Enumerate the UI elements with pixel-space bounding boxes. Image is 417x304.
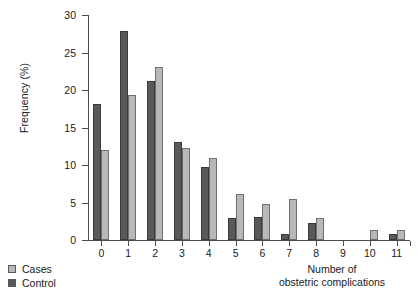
bar-cases-11 xyxy=(397,230,405,240)
x-tick-mark-end xyxy=(410,241,411,246)
y-tick-mark xyxy=(82,53,88,54)
x-tick-label: 10 xyxy=(364,247,376,259)
y-tick-label: 20 xyxy=(64,84,76,96)
y-tick-mark xyxy=(82,128,88,129)
x-tick-mark xyxy=(343,241,344,246)
y-tick-label: 5 xyxy=(70,197,76,209)
x-tick-mark xyxy=(128,241,129,246)
bar-chart-figure: Frequency (%) 051015202530 0123456789101… xyxy=(0,0,417,304)
y-tick-label: 15 xyxy=(64,122,76,134)
bar-control-0 xyxy=(93,104,101,240)
legend-swatch-cases-icon xyxy=(8,265,16,273)
y-tick-mark xyxy=(82,15,88,16)
y-tick-mark xyxy=(82,90,88,91)
x-tick-mark xyxy=(289,241,290,246)
x-axis-title: Number of obstetric complications xyxy=(252,263,412,289)
bar-control-6 xyxy=(254,217,262,240)
legend-item-control: Control xyxy=(8,276,56,290)
chart-legend: Cases Control xyxy=(8,262,56,290)
y-tick-label: 25 xyxy=(64,47,76,59)
x-tick-label: 9 xyxy=(340,247,346,259)
x-axis-line xyxy=(88,240,410,241)
x-tick-mark xyxy=(397,241,398,246)
x-tick-label: 1 xyxy=(125,247,131,259)
y-tick-mark xyxy=(82,240,88,241)
bar-cases-0 xyxy=(101,150,109,240)
y-tick-label: 30 xyxy=(64,9,76,21)
y-tick-label: 0 xyxy=(70,234,76,246)
x-tick-mark xyxy=(316,241,317,246)
legend-item-cases: Cases xyxy=(8,262,56,276)
bar-cases-3 xyxy=(182,148,190,240)
bar-control-11 xyxy=(389,234,397,240)
bar-control-5 xyxy=(228,218,236,241)
x-tick-label: 2 xyxy=(152,247,158,259)
y-tick-mark xyxy=(82,165,88,166)
x-tick-label: 5 xyxy=(233,247,239,259)
x-tick-label: 4 xyxy=(206,247,212,259)
x-axis-title-line-2: obstetric complications xyxy=(252,276,412,289)
bar-cases-2 xyxy=(155,67,163,240)
bar-cases-1 xyxy=(128,95,136,240)
x-tick-mark xyxy=(370,241,371,246)
bar-control-8 xyxy=(308,223,316,240)
bar-control-4 xyxy=(201,167,209,241)
bar-cases-6 xyxy=(262,204,270,240)
bar-cases-4 xyxy=(209,158,217,241)
x-tick-mark xyxy=(262,241,263,246)
x-tick-mark xyxy=(209,241,210,246)
bar-cases-8 xyxy=(316,218,324,240)
x-tick-label: 11 xyxy=(391,247,402,259)
x-tick-mark xyxy=(101,241,102,246)
x-axis-tick-labels: 01234567891011 xyxy=(0,247,417,263)
x-tick-label: 0 xyxy=(98,247,104,259)
bar-control-3 xyxy=(174,142,182,240)
plot-area xyxy=(88,15,410,240)
y-tick-mark xyxy=(82,203,88,204)
bar-control-2 xyxy=(147,81,155,240)
x-tick-label: 3 xyxy=(179,247,185,259)
bar-cases-5 xyxy=(236,194,244,241)
bar-control-1 xyxy=(120,31,128,240)
legend-swatch-control-icon xyxy=(8,279,16,287)
bar-cases-10 xyxy=(370,230,378,240)
legend-label-control: Control xyxy=(22,277,56,289)
x-tick-label: 8 xyxy=(313,247,319,259)
bar-control-7 xyxy=(281,234,289,240)
x-tick-mark xyxy=(182,241,183,246)
x-tick-mark xyxy=(236,241,237,246)
bar-cases-7 xyxy=(289,199,297,240)
y-tick-label: 10 xyxy=(64,159,76,171)
x-axis-title-line-1: Number of xyxy=(252,263,412,276)
x-tick-label: 7 xyxy=(286,247,292,259)
x-tick-label: 6 xyxy=(259,247,265,259)
legend-label-cases: Cases xyxy=(22,263,52,275)
x-tick-mark xyxy=(155,241,156,246)
